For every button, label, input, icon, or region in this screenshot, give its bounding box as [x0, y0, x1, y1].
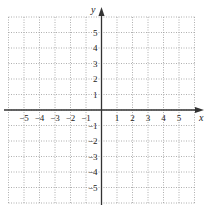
x-tick-label: −2 — [66, 113, 76, 123]
y-tick-label: −3 — [88, 152, 98, 162]
y-tick-label: −2 — [88, 136, 98, 146]
x-tick-label: 3 — [146, 113, 151, 123]
x-tick-label: 1 — [115, 113, 120, 123]
x-tick-label: 4 — [161, 113, 166, 123]
coordinate-plane: x y −5−4−3−2−11234554321−1−2−3−4−5 — [0, 0, 208, 208]
y-tick-label: −5 — [88, 183, 98, 193]
y-tick-label: 1 — [93, 90, 98, 100]
y-tick-label: 3 — [93, 59, 98, 69]
x-tick-label: −5 — [19, 113, 29, 123]
y-axis-arrow-icon — [99, 7, 105, 16]
y-axis-label: y — [90, 4, 96, 15]
x-tick-label: −3 — [50, 113, 60, 123]
y-tick-label: −4 — [88, 167, 98, 177]
x-tick-label: −4 — [35, 113, 45, 123]
y-tick-label: 2 — [93, 74, 98, 84]
axes — [4, 7, 204, 205]
y-tick-label: 5 — [93, 28, 98, 38]
y-tick-label: −1 — [88, 121, 98, 131]
x-tick-label: 2 — [130, 113, 135, 123]
y-tick-label: 4 — [93, 43, 98, 53]
x-tick-label: 5 — [177, 113, 182, 123]
x-axis-label: x — [198, 112, 204, 123]
